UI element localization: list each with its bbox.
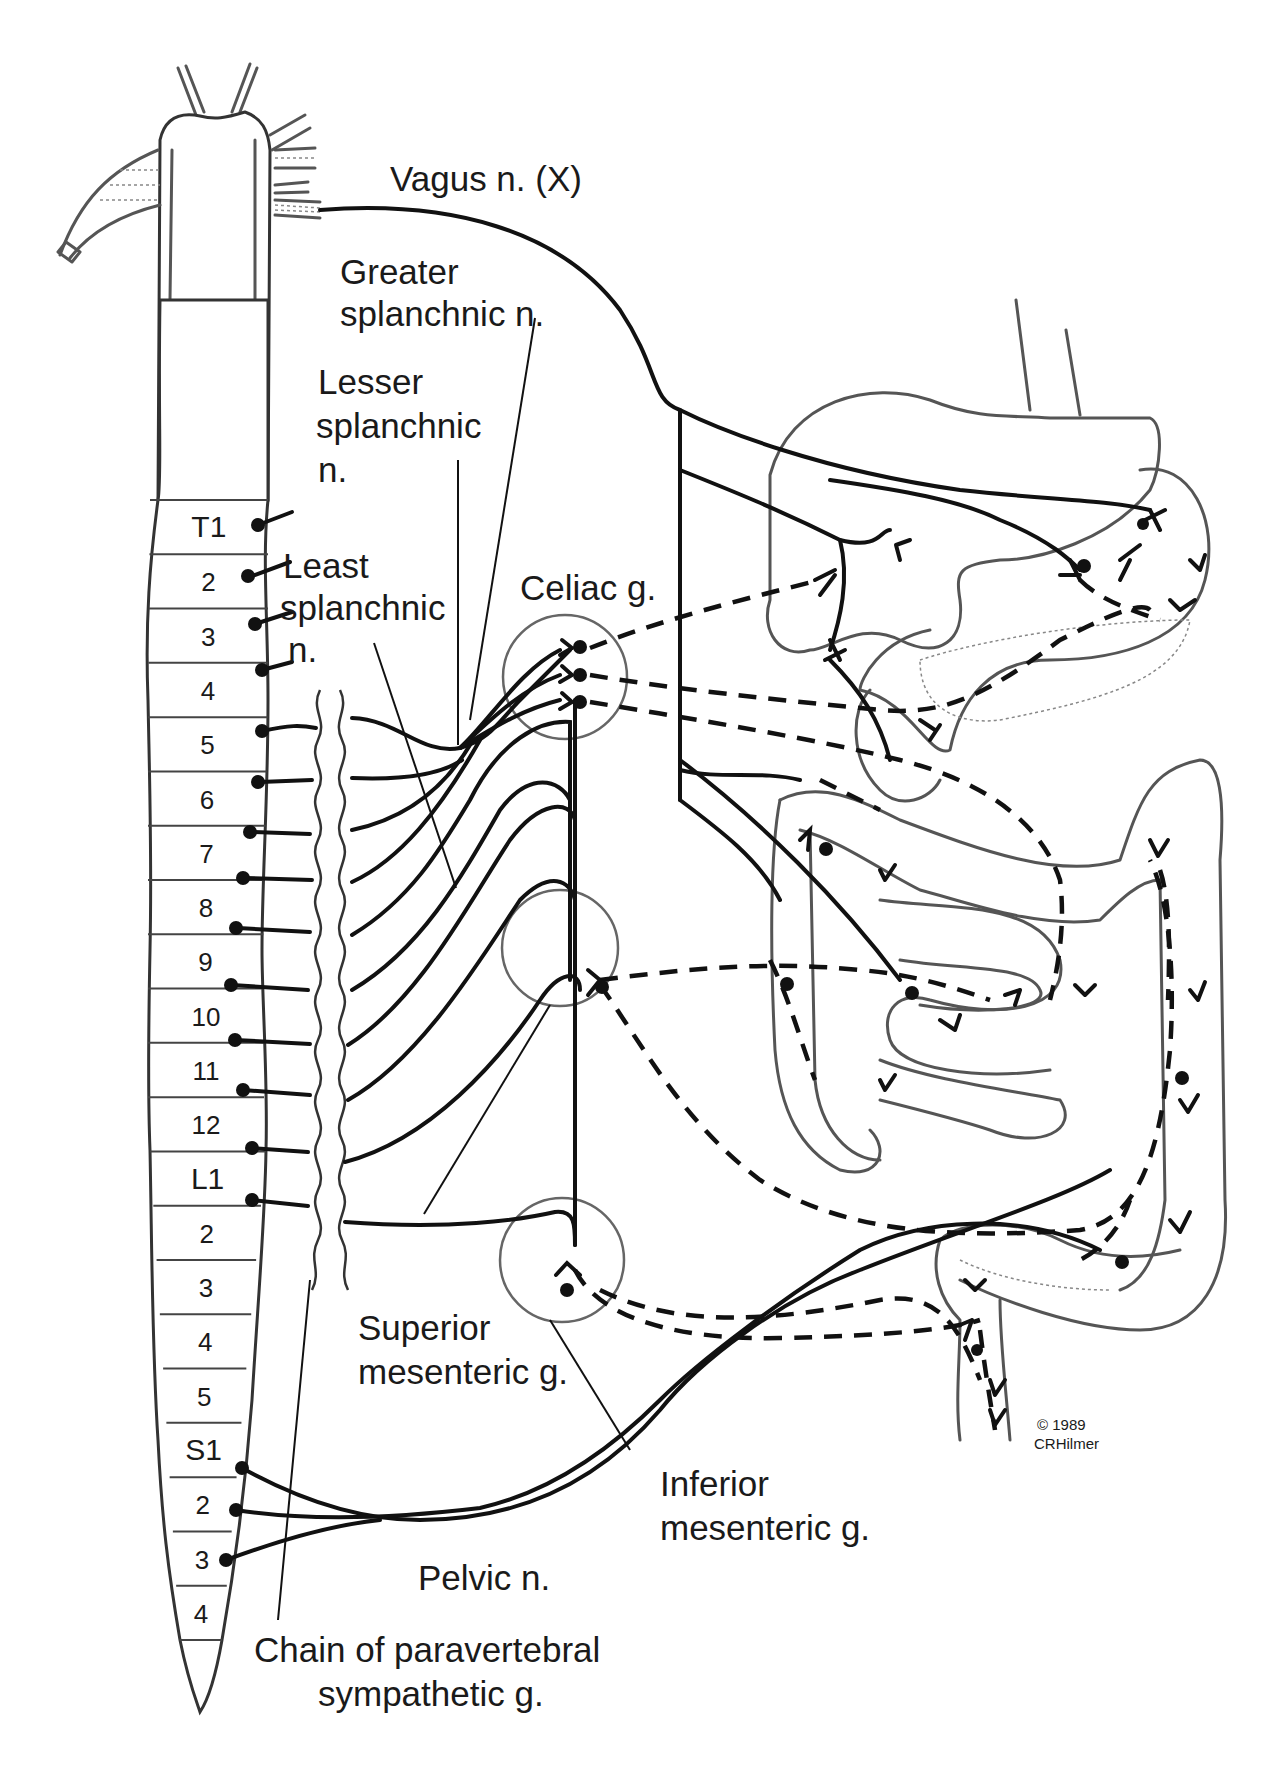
abdominal-organs	[767, 300, 1225, 1440]
label-lesser-splanchnic-1: Lesser	[318, 362, 423, 401]
spinal-segment-label: 7	[199, 839, 213, 869]
spinal-segment-label: 3	[201, 622, 215, 652]
nerve-terminals	[556, 510, 1205, 1425]
copyright-year: © 1989	[1037, 1416, 1086, 1433]
autonomic-innervation-diagram: T123456789101112L12345S1234	[0, 0, 1270, 1777]
neuron-cell-bodies	[219, 518, 1189, 1567]
label-paravertebral-chain-1: Chain of paravertebral	[254, 1630, 600, 1669]
spinal-segment-label: 8	[199, 893, 213, 923]
label-least-splanchnic-1: Least	[283, 546, 369, 585]
labels: Vagus n. (X) Greater splanchnic n. Lesse…	[254, 159, 1099, 1713]
label-lesser-splanchnic-3: n.	[318, 450, 347, 489]
label-superior-mesenteric-2: mesenteric g.	[358, 1352, 568, 1391]
label-pelvic-nerve: Pelvic n.	[418, 1558, 550, 1597]
spinal-segment-label: 2	[201, 567, 215, 597]
spinal-segment-label: S1	[185, 1433, 222, 1466]
label-vagus-nerve: Vagus n. (X)	[390, 159, 582, 198]
spinal-segment-label: 5	[200, 730, 214, 760]
sympathetic-chain	[312, 690, 348, 1290]
spinal-segment-label: 5	[197, 1382, 211, 1412]
label-superior-mesenteric-1: Superior	[358, 1308, 491, 1347]
leader-lines	[278, 318, 630, 1620]
spinal-segment-label: 4	[201, 676, 215, 706]
label-celiac-ganglion: Celiac g.	[520, 568, 656, 607]
spinal-segment-label: 3	[199, 1273, 213, 1303]
spinal-segment-label: 4	[198, 1327, 212, 1357]
spinal-segment-label: L1	[191, 1162, 224, 1195]
spinal-segment-label: 2	[200, 1219, 214, 1249]
spinal-segment-label: 12	[192, 1110, 221, 1140]
spinal-segment-label: 9	[198, 947, 212, 977]
postganglionic-fibers	[575, 580, 1172, 1430]
spinal-segment-label: 2	[195, 1490, 209, 1520]
label-lesser-splanchnic-2: splanchnic	[316, 406, 481, 445]
label-least-splanchnic-2: splanchnic	[280, 588, 445, 627]
spinal-segment-label: 11	[193, 1056, 220, 1086]
label-inferior-mesenteric-1: Inferior	[660, 1464, 769, 1503]
label-least-splanchnic-3: n.	[288, 630, 317, 669]
spinal-segment-label: 3	[195, 1545, 209, 1575]
label-paravertebral-chain-2: sympathetic g.	[318, 1674, 544, 1713]
spinal-segment-label: 6	[200, 785, 214, 815]
label-inferior-mesenteric-2: mesenteric g.	[660, 1508, 870, 1547]
copyright-author: CRHilmer	[1034, 1435, 1099, 1452]
spinal-segment-label: T1	[191, 510, 226, 543]
spinal-segment-label: 4	[194, 1599, 208, 1629]
label-greater-splanchnic-2: splanchnic n.	[340, 294, 544, 333]
spinal-segment-label: 10	[192, 1002, 221, 1032]
label-greater-splanchnic-1: Greater	[340, 252, 459, 291]
